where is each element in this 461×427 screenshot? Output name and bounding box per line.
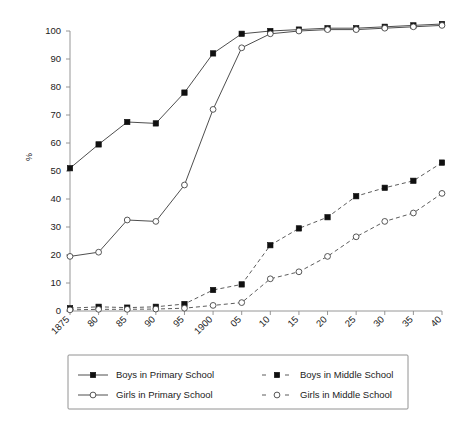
data-point-marker xyxy=(182,305,188,311)
line-chart: 0102030405060708090100 18758085909519000… xyxy=(0,0,461,427)
data-point-marker xyxy=(439,23,445,29)
x-tick-label: 95 xyxy=(171,314,186,329)
data-point-marker xyxy=(96,142,101,147)
data-point-marker xyxy=(353,234,359,240)
data-point-marker xyxy=(239,31,244,36)
data-point-marker xyxy=(67,166,72,171)
series-line xyxy=(70,193,442,309)
data-point-marker xyxy=(325,27,331,33)
data-point-marker xyxy=(90,392,96,398)
series-2 xyxy=(67,160,444,311)
data-point-marker xyxy=(125,119,130,124)
x-tick-label: 25 xyxy=(342,314,357,329)
x-tick-label: 90 xyxy=(142,314,157,329)
data-point-marker xyxy=(182,90,187,95)
y-tick-label: 10 xyxy=(50,277,61,288)
y-tick-label: 30 xyxy=(50,221,61,232)
data-point-marker xyxy=(67,254,73,260)
y-tick-label: 70 xyxy=(50,109,61,120)
data-point-marker xyxy=(210,303,216,309)
data-point-marker xyxy=(382,219,388,225)
data-point-marker xyxy=(267,276,273,282)
data-point-marker xyxy=(96,306,102,312)
legend-border xyxy=(68,355,408,409)
series-1 xyxy=(67,23,445,260)
data-point-marker xyxy=(90,372,95,377)
data-point-marker xyxy=(153,219,159,225)
y-tick-label: 100 xyxy=(45,25,61,36)
x-tick-label: 1875 xyxy=(49,314,72,337)
data-point-marker xyxy=(382,185,387,190)
y-tick-label: 60 xyxy=(50,137,61,148)
data-point-marker xyxy=(353,194,358,199)
data-point-marker xyxy=(268,243,273,248)
x-axis-ticks: 18758085909519000510152025303540 xyxy=(49,311,444,336)
x-tick-label: 35 xyxy=(400,314,415,329)
x-tick-label: 40 xyxy=(428,314,443,329)
legend-label: Girls in Middle School xyxy=(300,389,392,400)
data-point-marker xyxy=(182,182,188,188)
data-point-marker xyxy=(382,25,388,31)
data-point-marker xyxy=(410,24,416,30)
data-point-marker xyxy=(410,210,416,216)
series-line xyxy=(70,163,442,309)
x-tick-label: 05 xyxy=(228,314,243,329)
chart-legend: Boys in Primary SchoolBoys in Middle Sch… xyxy=(68,355,408,409)
y-tick-label: 20 xyxy=(50,249,61,260)
data-point-marker xyxy=(325,215,330,220)
data-point-marker xyxy=(210,51,215,56)
data-point-marker xyxy=(67,307,73,313)
data-point-marker xyxy=(439,191,445,197)
legend-label: Boys in Middle School xyxy=(300,369,393,380)
data-point-marker xyxy=(239,282,244,287)
data-point-marker xyxy=(439,160,444,165)
x-tick-label: 80 xyxy=(85,314,100,329)
y-tick-label: 80 xyxy=(50,81,61,92)
data-point-marker xyxy=(267,31,273,37)
data-point-marker xyxy=(239,45,245,51)
x-tick-label: 85 xyxy=(113,314,128,329)
data-point-marker xyxy=(296,269,302,275)
y-tick-label: 90 xyxy=(50,53,61,64)
data-point-marker xyxy=(274,392,280,398)
data-point-marker xyxy=(411,178,416,183)
y-tick-label: 40 xyxy=(50,193,61,204)
series-line xyxy=(70,24,442,168)
x-tick-label: 20 xyxy=(314,314,329,329)
series-0 xyxy=(67,21,444,171)
legend-label: Boys in Primary School xyxy=(116,369,214,380)
data-point-marker xyxy=(239,300,245,306)
data-point-marker xyxy=(153,121,158,126)
y-tick-label: 0 xyxy=(56,305,61,316)
data-point-marker xyxy=(210,107,216,113)
x-tick-label: 1900 xyxy=(192,314,215,337)
y-axis-title: % xyxy=(24,142,34,172)
data-point-marker xyxy=(210,287,215,292)
x-tick-label: 30 xyxy=(371,314,386,329)
data-point-marker xyxy=(296,28,302,34)
data-point-marker xyxy=(353,27,359,33)
chart-figure: % 0102030405060708090100 187580859095190… xyxy=(0,0,461,427)
x-tick-label: 15 xyxy=(285,314,300,329)
data-point-marker xyxy=(124,306,130,312)
data-series-layer xyxy=(67,21,445,312)
data-point-marker xyxy=(96,249,102,255)
series-3 xyxy=(67,191,445,313)
data-point-marker xyxy=(274,372,279,377)
y-tick-label: 50 xyxy=(50,165,61,176)
legend-label: Girls in Primary School xyxy=(116,389,213,400)
data-point-marker xyxy=(153,306,159,312)
data-point-marker xyxy=(296,226,301,231)
y-axis-ticks: 0102030405060708090100 xyxy=(45,25,70,316)
data-point-marker xyxy=(124,217,130,223)
x-tick-label: 10 xyxy=(256,314,271,329)
data-point-marker xyxy=(325,254,331,260)
